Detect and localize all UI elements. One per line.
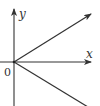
origin-point <box>13 61 16 64</box>
x-axis-label: x <box>86 47 93 61</box>
y-axis-label: y <box>18 7 26 21</box>
origin-label: 0 <box>4 66 11 79</box>
upper-ray <box>14 14 91 62</box>
diagram-canvas: y x 0 <box>0 0 100 106</box>
lower-ray <box>14 62 88 106</box>
